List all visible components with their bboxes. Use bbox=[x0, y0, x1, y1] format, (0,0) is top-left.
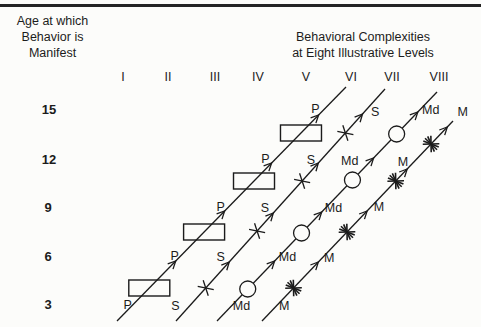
circle-symbol bbox=[389, 126, 405, 142]
series-label-P: P bbox=[311, 102, 319, 116]
series-label-M: M bbox=[457, 105, 467, 119]
age-label: 6 bbox=[44, 249, 51, 264]
level-label: VII bbox=[384, 70, 399, 84]
series-label-S: S bbox=[307, 153, 315, 167]
series-label-S: S bbox=[371, 105, 379, 119]
age-label: 15 bbox=[42, 102, 56, 117]
p-line bbox=[117, 87, 346, 321]
figure-canvas: Age at which Behavior is Manifest Behavi… bbox=[0, 0, 481, 327]
series-label-S: S bbox=[171, 299, 179, 313]
series-label-Md: Md bbox=[341, 154, 358, 168]
age-label: 9 bbox=[44, 200, 51, 215]
series-label-Md: Md bbox=[325, 201, 342, 215]
series-label-Md: Md bbox=[422, 103, 439, 117]
circle-symbol bbox=[294, 225, 310, 241]
circle-symbol bbox=[240, 281, 256, 297]
level-label: I bbox=[121, 70, 124, 84]
level-label: III bbox=[210, 70, 220, 84]
age-label: 12 bbox=[42, 152, 56, 167]
series-label-P: P bbox=[170, 249, 178, 263]
series-label-P: P bbox=[261, 152, 269, 166]
series-label-P: P bbox=[123, 298, 131, 312]
circle-symbol bbox=[344, 172, 360, 188]
level-label: II bbox=[165, 70, 172, 84]
age-label: 3 bbox=[44, 297, 51, 312]
series-label-S: S bbox=[216, 250, 224, 264]
series-label-P: P bbox=[216, 200, 224, 214]
series-label-S: S bbox=[261, 201, 269, 215]
series-label-M: M bbox=[374, 200, 384, 214]
development-diagram: 1512963IIIIIIIVVVIVIIVIIIPPPPPSSSSSMdMdM… bbox=[0, 0, 481, 327]
series-label-Md: Md bbox=[279, 250, 296, 264]
series-label-M: M bbox=[398, 155, 408, 169]
series-label-Md: Md bbox=[233, 299, 250, 313]
level-label: VI bbox=[345, 70, 357, 84]
level-label: IV bbox=[252, 70, 264, 84]
level-label: V bbox=[302, 70, 311, 84]
s-line bbox=[176, 89, 385, 321]
series-label-M: M bbox=[279, 299, 289, 313]
level-label: VIII bbox=[430, 70, 449, 84]
m-line bbox=[262, 121, 453, 321]
series-label-M: M bbox=[324, 251, 334, 265]
